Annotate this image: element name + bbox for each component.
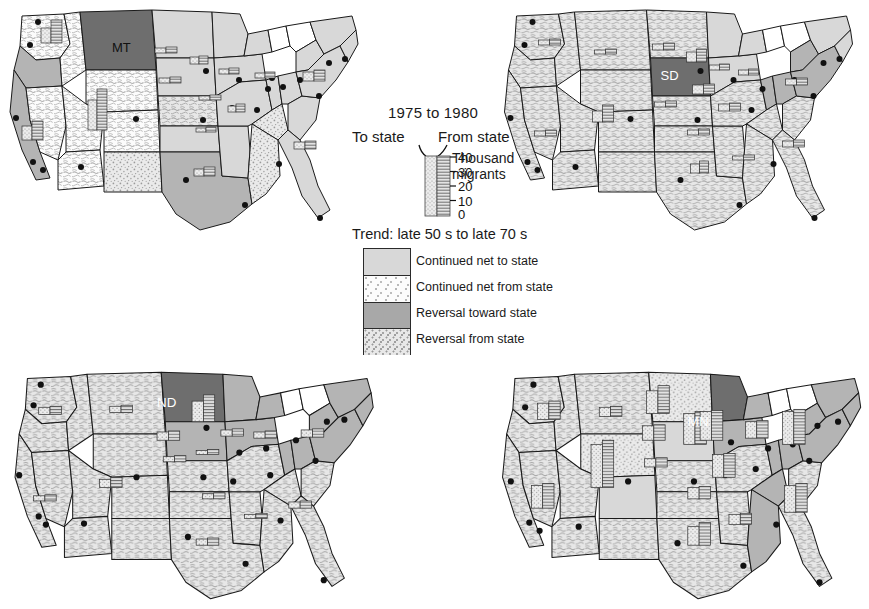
focus-state-label-mt: MT bbox=[112, 40, 131, 55]
state-ok[interactable] bbox=[218, 126, 250, 178]
flow-symbol bbox=[643, 425, 666, 440]
state-nm[interactable] bbox=[599, 518, 659, 559]
flow-symbol bbox=[289, 501, 312, 508]
leader-line-from bbox=[438, 145, 447, 156]
state-az[interactable] bbox=[552, 516, 599, 557]
leader-line-to bbox=[419, 145, 426, 156]
state-ne[interactable] bbox=[167, 461, 229, 492]
state-ne[interactable] bbox=[158, 96, 218, 126]
flow-symbol bbox=[219, 68, 239, 74]
flow-symbol bbox=[254, 431, 277, 438]
state-wi[interactable] bbox=[739, 30, 767, 56]
state-wi[interactable] bbox=[244, 30, 272, 56]
scale-legend-to-label: To state bbox=[352, 128, 405, 145]
map-panel-mn[interactable]: MN bbox=[486, 362, 869, 609]
state-mn[interactable] bbox=[223, 374, 260, 421]
flow-symbol bbox=[733, 155, 755, 160]
state-mn[interactable] bbox=[707, 12, 743, 58]
scale-units-line1: Thousand bbox=[452, 150, 514, 166]
state-nm[interactable] bbox=[599, 152, 657, 192]
focus-state-label-mn: MN bbox=[688, 414, 709, 429]
flow-symbol bbox=[196, 449, 219, 454]
state-nm[interactable] bbox=[104, 152, 162, 192]
flow-symbol bbox=[782, 409, 805, 444]
flow-symbol bbox=[745, 421, 768, 438]
state-ne[interactable] bbox=[653, 96, 713, 126]
state-az[interactable] bbox=[64, 516, 111, 557]
flow-symbol bbox=[159, 77, 181, 83]
flow-symbol bbox=[163, 456, 186, 462]
state-mn[interactable] bbox=[212, 12, 248, 58]
flow-symbol bbox=[688, 487, 711, 499]
focus-state-label-sd: SD bbox=[661, 68, 679, 83]
flow-symbol bbox=[202, 493, 225, 499]
flow-symbol bbox=[645, 458, 668, 467]
flow-symbol bbox=[712, 454, 735, 478]
scale-tick-0: 0 bbox=[458, 207, 465, 219]
flow-symbol bbox=[739, 69, 759, 75]
legend-label-continued-net-to-state: Continued net to state bbox=[416, 248, 556, 274]
state-mt[interactable] bbox=[575, 10, 651, 70]
flow-symbol bbox=[199, 95, 221, 100]
state-co[interactable] bbox=[104, 110, 160, 152]
state-mt[interactable] bbox=[575, 372, 653, 434]
swatch-reversal-from-state bbox=[364, 329, 410, 355]
flow-symbol bbox=[653, 43, 675, 50]
scale-bar-from bbox=[437, 156, 450, 216]
us-map-mt[interactable]: MT bbox=[0, 0, 360, 240]
us-map-nd[interactable]: ND bbox=[0, 362, 380, 609]
flow-symbol bbox=[294, 141, 316, 149]
legend-label-continued-net-from-state: Continued net from state bbox=[416, 274, 556, 300]
state-ok[interactable] bbox=[713, 126, 745, 178]
trend-legend-title: Trend: late 50 s to late 70 s bbox=[352, 226, 527, 242]
flow-symbol bbox=[693, 84, 715, 94]
flow-symbol bbox=[157, 431, 180, 440]
scale-bar-to bbox=[425, 156, 437, 216]
trend-legend-labels: Continued net to state Continued net fro… bbox=[416, 248, 556, 353]
flow-symbol bbox=[110, 405, 133, 412]
flow-symbol bbox=[245, 513, 268, 518]
flow-symbol bbox=[303, 70, 325, 81]
legend-label-reversal-from-state: Reversal from state bbox=[416, 326, 556, 352]
flow-symbol bbox=[785, 483, 808, 512]
scale-legend-title: 1975 to 1980 bbox=[388, 104, 478, 121]
scale-legend-from-label: From state bbox=[438, 128, 510, 145]
state-ga-fl[interactable] bbox=[291, 496, 345, 587]
flow-symbol bbox=[595, 49, 617, 54]
map-panel-nd[interactable]: ND bbox=[0, 362, 380, 609]
flow-symbol bbox=[539, 39, 561, 45]
state-wy[interactable] bbox=[93, 434, 167, 477]
focus-state-label-nd: ND bbox=[157, 395, 177, 410]
flow-symbol bbox=[599, 406, 622, 416]
flow-symbol bbox=[710, 64, 730, 70]
swatch-continued-net-from-state bbox=[364, 276, 410, 303]
legend-label-reversal-toward-state: Reversal toward state bbox=[416, 300, 556, 326]
state-wi[interactable] bbox=[256, 393, 285, 420]
map-panel-mt[interactable]: MT bbox=[0, 0, 360, 240]
flow-symbol bbox=[729, 513, 752, 524]
flow-symbol bbox=[538, 401, 561, 420]
state-nm[interactable] bbox=[112, 518, 172, 559]
flow-symbol bbox=[783, 140, 805, 147]
swatch-continued-net-to-state bbox=[364, 249, 410, 276]
flow-symbol bbox=[531, 483, 554, 508]
trend-legend-swatches bbox=[363, 248, 411, 355]
flow-symbol bbox=[196, 127, 216, 132]
flow-symbol bbox=[190, 56, 208, 64]
state-wi[interactable] bbox=[743, 393, 772, 420]
flow-symbol bbox=[255, 72, 275, 78]
us-map-mn[interactable]: MN bbox=[486, 362, 869, 609]
state-mt[interactable] bbox=[87, 372, 165, 434]
flow-symbol bbox=[301, 429, 324, 437]
flow-symbol bbox=[719, 103, 741, 111]
flow-symbol bbox=[591, 440, 614, 487]
flow-symbol bbox=[786, 78, 808, 85]
state-wy[interactable] bbox=[581, 70, 653, 112]
legend-block: 1975 to 1980 To state From state 40 30 2… bbox=[352, 104, 552, 359]
flow-symbol bbox=[34, 495, 57, 501]
flow-symbol bbox=[155, 47, 177, 53]
flow-symbol bbox=[688, 129, 710, 135]
flow-symbol bbox=[39, 406, 62, 414]
scale-units: Thousand migrants bbox=[452, 150, 514, 182]
swatch-reversal-toward-state bbox=[364, 303, 410, 330]
